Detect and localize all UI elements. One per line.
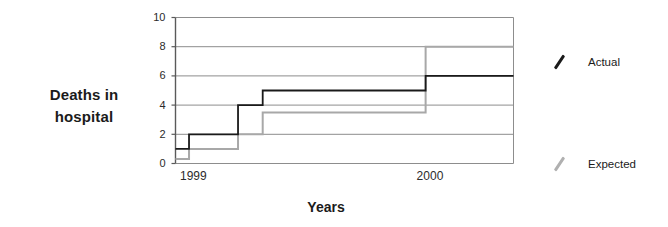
x-tick-label-1999: 1999 [180,170,207,182]
y-tick-label-6: 6 [140,70,166,81]
legend-line-icon-actual [556,55,574,69]
legend-item-actual: Actual [556,55,620,69]
y-tick-label-0: 0 [140,158,166,169]
y-tick-label-10: 10 [140,12,166,23]
x-tick-label-2000: 2000 [417,170,444,182]
plot-area [0,0,668,227]
y-tick-label-2: 2 [140,129,166,140]
y-tick-label-8: 8 [140,41,166,52]
legend-label-expected: Expected [588,158,636,170]
legend-line-icon-expected [556,157,574,171]
series-line-expected [176,47,514,159]
legend-label-actual: Actual [588,56,620,68]
chart-figure: Deaths in hospital 0246810 19992000 Year… [0,0,668,227]
y-tick-label-4: 4 [140,100,166,111]
x-axis-title: Years [252,199,400,215]
legend-item-expected: Expected [556,157,636,171]
